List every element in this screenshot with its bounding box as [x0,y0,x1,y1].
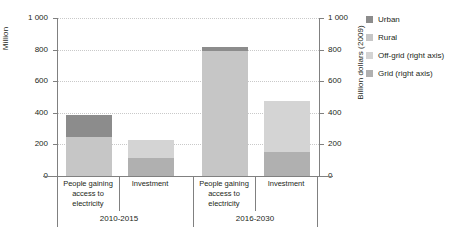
y-axis-right-tick-label: 200 [328,140,368,148]
bar-segment [128,140,174,157]
y-axis-left-title: Million [1,17,10,61]
tick-mark [53,50,57,51]
y-axis-left-tick-label: 0 [8,172,48,180]
tick-mark [320,50,324,51]
category-divider [255,177,256,211]
gridline [58,81,319,82]
legend-label: Urban [378,15,400,24]
bar [202,47,248,176]
tick-mark [53,113,57,114]
category-label: Investment [255,179,317,189]
bar [128,140,174,176]
y-axis-right-tick-label: 1 000 [328,14,368,22]
category-label: People gaining access to electricity [57,179,119,209]
tick-mark [53,18,57,19]
tick-mark [320,144,324,145]
legend-swatch-icon [366,16,373,23]
y-axis-left-tick-label: 600 [8,77,48,85]
y-axis-left-tick-label: 1 000 [8,14,48,22]
chart-legend: UrbanRuralOff-grid (right axis)Grid (rig… [366,10,472,82]
category-axis: People gaining access to electricityInve… [43,177,333,229]
y-axis-left-tick-label: 400 [8,109,48,117]
category-divider [119,177,120,211]
legend-item: Off-grid (right axis) [366,46,472,64]
bar-segment [264,101,310,152]
plot-area: 02004006008001 000 02004006008001 000 [57,18,320,176]
tick-mark [53,81,57,82]
legend-label: Grid (right axis) [378,69,433,78]
gridline [58,50,319,51]
bar-segment [202,51,248,176]
y-axis-right-tick-label: 0 [328,172,368,180]
bar-segment [264,152,310,176]
tick-mark [53,144,57,145]
legend-swatch-icon [366,34,373,41]
legend-item: Rural [366,28,472,46]
y-axis-right-tick-label: 800 [328,46,368,54]
bar-segment [128,158,174,176]
legend-label: Rural [378,33,397,42]
chart-figure: Million Billion dollars (2009) 020040060… [0,0,472,244]
legend-swatch-icon [366,70,373,77]
y-axis-left-tick-label: 800 [8,46,48,54]
category-divider [317,177,318,227]
legend-item: Grid (right axis) [366,64,472,82]
legend-label: Off-grid (right axis) [378,51,444,60]
group-label: 2016-2030 [193,214,317,223]
category-label: People gaining access to electricity [193,179,255,209]
bar-segment [66,115,112,137]
y-axis-right-tick-label: 400 [328,109,368,117]
bar [66,115,112,176]
y-axis-left-tick-label: 200 [8,140,48,148]
tick-mark [320,113,324,114]
tick-mark [320,18,324,19]
tick-mark [320,81,324,82]
group-label: 2010-2015 [57,214,181,223]
y-axis-right-tick-label: 600 [328,77,368,85]
y-axis-right-title: Billion dollars (2009) [356,13,365,113]
category-label: Investment [119,179,181,189]
gridline [58,18,319,19]
legend-item: Urban [366,10,472,28]
bar-segment [66,137,112,176]
bar [264,101,310,176]
legend-swatch-icon [366,52,373,59]
